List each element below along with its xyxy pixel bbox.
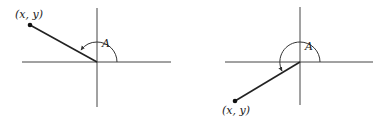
- angle-diagrams: (x, y) A (x, y) A: [0, 0, 391, 121]
- terminal-side-ray: [30, 25, 97, 62]
- angle-label: A: [101, 37, 110, 50]
- point-label: (x, y): [222, 104, 250, 117]
- point-marker: [233, 99, 238, 104]
- point-label: (x, y): [15, 8, 43, 21]
- terminal-side-ray: [235, 62, 300, 101]
- angle-arc-arrow: [280, 42, 300, 71]
- right-figure: (x, y) A: [222, 7, 373, 117]
- point-marker: [28, 23, 33, 28]
- angle-label: A: [304, 40, 313, 53]
- angle-arc-arrow: [81, 42, 97, 50]
- left-figure: (x, y) A: [15, 8, 171, 107]
